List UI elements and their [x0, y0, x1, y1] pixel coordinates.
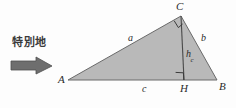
side-label-a: a	[128, 33, 133, 43]
geometry-figure: 特別地 A B C H a b c hc	[0, 0, 236, 108]
right-arrow-icon	[11, 57, 52, 74]
triangle-abc	[68, 16, 217, 80]
vertex-label-h: H	[180, 83, 188, 94]
triangle-diagram-svg	[0, 0, 236, 108]
side-label-c: c	[142, 84, 146, 94]
annotation-label: 特別地	[12, 37, 47, 48]
altitude-label-subscript: c	[191, 56, 194, 64]
side-label-b: b	[201, 33, 206, 43]
altitude-label-hc: hc	[186, 49, 194, 62]
vertex-label-a: A	[58, 74, 65, 85]
vertex-label-c: C	[176, 1, 183, 12]
vertex-label-b: B	[219, 81, 226, 92]
